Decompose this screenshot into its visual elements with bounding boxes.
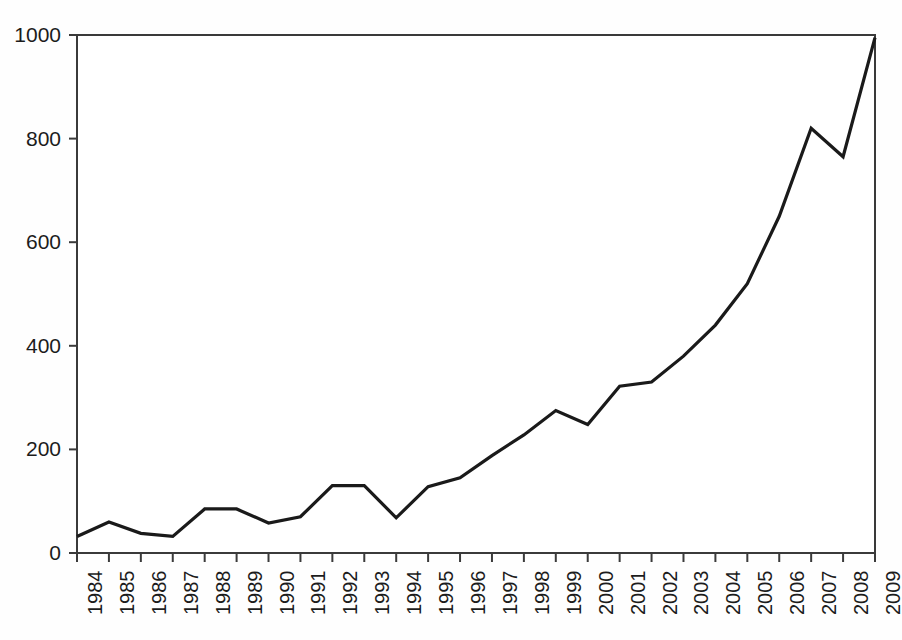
chart-container: 02004006008001000 1984198519861987198819…: [0, 0, 902, 640]
y-axis-tick-label: 800: [0, 128, 61, 149]
plot-frame: [77, 35, 875, 553]
x-axis-tick-label: 2002: [660, 571, 680, 616]
y-axis-ticks: [69, 35, 77, 553]
x-axis-tick-label: 1985: [117, 571, 137, 616]
y-axis-tick-label: 600: [0, 231, 61, 252]
x-axis-tick-label: 1991: [308, 571, 328, 616]
x-axis-tick-label: 1997: [500, 571, 520, 616]
x-axis-tick-label: 1999: [564, 571, 584, 616]
x-axis-tick-label: 2009: [883, 571, 902, 616]
x-axis-tick-label: 1990: [277, 571, 297, 616]
y-axis-tick-label: 1000: [0, 24, 61, 45]
x-axis-tick-label: 1989: [245, 571, 265, 616]
x-axis-tick-label: 2001: [628, 571, 648, 616]
x-axis-tick-label: 2003: [691, 571, 711, 616]
x-axis-tick-label: 1998: [532, 571, 552, 616]
x-axis-tick-label: 1994: [404, 571, 424, 616]
x-axis-tick-label: 1986: [149, 571, 169, 616]
x-axis-tick-label: 2005: [755, 571, 775, 616]
chart-plot-area: [0, 0, 902, 640]
y-axis-tick-label: 400: [0, 335, 61, 356]
x-axis-tick-label: 1995: [436, 571, 456, 616]
y-axis-tick-label: 0: [0, 542, 61, 563]
x-axis-tick-label: 1992: [340, 571, 360, 616]
x-axis-tick-label: 1996: [468, 571, 488, 616]
x-axis-tick-label: 2004: [723, 571, 743, 616]
x-axis-ticks: [77, 553, 875, 562]
x-axis-tick-label: 1988: [213, 571, 233, 616]
x-axis-tick-label: 1993: [372, 571, 392, 616]
x-axis-tick-label: 1987: [181, 571, 201, 616]
x-axis-tick-label: 2007: [819, 571, 839, 616]
y-axis-tick-label: 200: [0, 438, 61, 459]
x-axis-tick-label: 2006: [787, 571, 807, 616]
x-axis-tick-label: 2000: [596, 571, 616, 616]
x-axis-tick-label: 2008: [851, 571, 871, 616]
x-axis-tick-label: 1984: [85, 571, 105, 616]
